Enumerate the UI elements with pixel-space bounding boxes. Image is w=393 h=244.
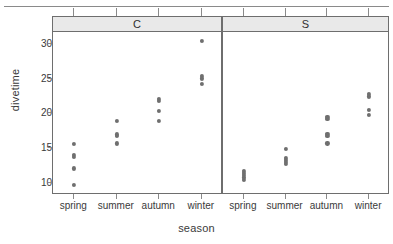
x-axis-tick [73, 194, 74, 199]
data-point [72, 183, 76, 187]
x-axis-tick [368, 194, 369, 199]
chart-panel-s: S [222, 16, 389, 194]
top-axis-tick [116, 8, 117, 16]
y-axis-title: divetime [9, 54, 21, 126]
top-axis-tick [201, 8, 202, 16]
top-axis-tick [285, 8, 286, 16]
x-axis-tick-label: winter [355, 200, 382, 211]
data-point [367, 107, 371, 111]
top-axis-tick [368, 8, 369, 16]
panel-plot-area [222, 32, 389, 194]
data-point [367, 113, 371, 117]
data-point [72, 142, 76, 146]
data-point [325, 117, 329, 121]
data-point [157, 119, 161, 123]
data-point [115, 134, 119, 138]
panel-strip-label: S [222, 16, 389, 32]
x-axis-tick [116, 194, 117, 199]
data-point [200, 39, 204, 43]
x-axis-tick-label: autumn [142, 200, 175, 211]
top-axis-tick [326, 8, 327, 16]
data-point [367, 94, 371, 98]
data-point [200, 76, 204, 80]
x-axis-tick [201, 194, 202, 199]
top-axis-tick [158, 8, 159, 16]
data-point [325, 141, 329, 145]
x-axis-tick-label: winter [187, 200, 214, 211]
top-divider-rule [4, 6, 389, 7]
data-point [115, 119, 119, 123]
data-point [242, 178, 246, 182]
x-axis-tick-label: autumn [310, 200, 343, 211]
x-axis-tick-label: summer [98, 200, 134, 211]
data-point [157, 99, 161, 103]
data-point [284, 147, 288, 151]
data-point [157, 109, 161, 113]
chart-figure: divetime season 1015202530 Cspringsummer… [0, 0, 393, 244]
panel-plot-area [52, 32, 222, 194]
x-axis-tick-label: summer [267, 200, 303, 211]
x-axis-tick-label: spring [60, 200, 87, 211]
data-point [284, 162, 288, 166]
data-point [325, 134, 329, 138]
x-axis-tick [285, 194, 286, 199]
top-axis-tick [243, 8, 244, 16]
data-point [72, 166, 76, 170]
y-axis: 1015202530 [24, 0, 52, 244]
top-axis-tick [73, 8, 74, 16]
data-point [72, 155, 76, 159]
x-axis-title: season [0, 222, 393, 234]
chart-panel-c: C [52, 16, 222, 194]
x-axis-tick [326, 194, 327, 199]
x-axis-tick [243, 194, 244, 199]
data-point [200, 82, 204, 86]
x-axis-tick-label: spring [229, 200, 256, 211]
panel-strip-label: C [52, 16, 222, 32]
x-axis-tick [158, 194, 159, 199]
data-point [115, 141, 119, 145]
